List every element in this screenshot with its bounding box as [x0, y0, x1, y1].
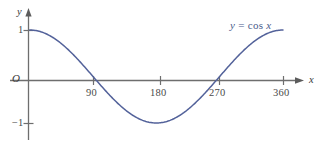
curve-equation-label: y=cosx: [230, 20, 271, 31]
x-tick-label-360: 360: [273, 88, 289, 99]
origin-label: O: [12, 73, 20, 84]
y-tick-label-1: 1: [18, 25, 23, 36]
x-axis-label: x: [309, 75, 314, 86]
x-tick-label-270: 270: [209, 88, 225, 99]
y-tick-label-minus-1: −1: [12, 118, 23, 129]
x-tick-label-90: 90: [86, 88, 97, 99]
curve-label-y: y: [230, 19, 235, 31]
curve-label-equals: =: [238, 19, 245, 31]
cosine-graph-figure: y x O 1 −1 90 180 270 360 y=cosx: [0, 0, 323, 147]
x-tick-label-180: 180: [150, 88, 166, 99]
y-axis-label: y: [17, 7, 22, 18]
plot-canvas: [0, 0, 323, 147]
y-axis-arrowhead: [25, 8, 31, 17]
x-axis-arrowhead: [295, 77, 304, 83]
cosine-curve: [30, 30, 283, 123]
curve-label-function: cos: [248, 19, 264, 31]
curve-label-variable: x: [266, 19, 271, 31]
